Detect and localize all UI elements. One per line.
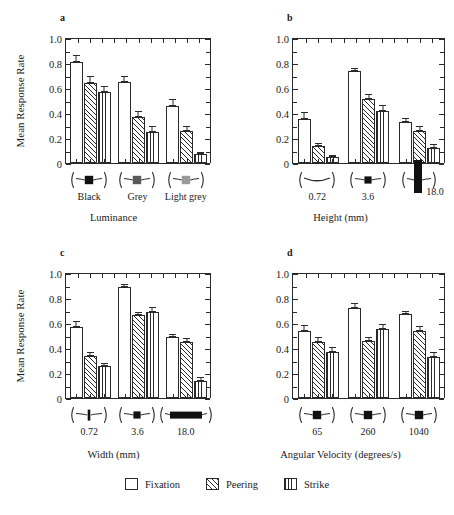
bar-slot (298, 39, 311, 163)
y-tick-label: 0.6 (49, 84, 62, 95)
legend-item-peering: Peering (206, 478, 258, 490)
panel-b-letter: b (287, 12, 293, 23)
x-tick-mark (173, 394, 174, 398)
x-tick-mark (355, 159, 356, 163)
panel-d-x-axis-title: Angular Velocity (degrees/s) (227, 449, 454, 460)
bar-slot (98, 274, 111, 398)
bar-fixation (399, 314, 412, 398)
error-bar (152, 126, 153, 132)
bar-group (394, 39, 445, 163)
x-tick-mark (383, 394, 384, 398)
bar-slot (399, 274, 412, 398)
error-bar (382, 105, 383, 111)
panel-c-x-axis-title: Width (mm) (0, 449, 227, 460)
y-tick-label: 0.4 (276, 109, 289, 120)
panel-c-letter: c (60, 247, 64, 258)
x-tick-mark (187, 394, 188, 398)
y-tick-label: 0 (284, 394, 289, 405)
y-tick-label: 0 (57, 159, 62, 170)
bar-slot (132, 274, 145, 398)
bar-slot (132, 39, 145, 163)
error-bar (368, 337, 369, 340)
x-category-label: 18.0 (156, 426, 216, 437)
x-tick-mark (332, 159, 333, 163)
legend-label-fixation: Fixation (145, 479, 180, 490)
x-tick-mark (318, 159, 319, 163)
y-tick-label: 0.8 (276, 59, 289, 70)
bar-peering (312, 342, 325, 398)
error-bar (332, 155, 333, 157)
bar-strike (376, 111, 389, 163)
error-bar (318, 143, 319, 146)
bar-slot (362, 274, 375, 398)
x-tick-mark (355, 394, 356, 398)
bar-fixation (70, 327, 83, 398)
error-bar (104, 86, 105, 92)
bar-slot (312, 39, 325, 163)
x-tick-mark (434, 394, 435, 398)
panel-a-x-axis-title: Luminance (0, 212, 227, 223)
x-tick-mark (434, 159, 435, 163)
y-tick-label: 1.0 (49, 269, 62, 280)
bar-strike (146, 312, 159, 398)
bar-strike (98, 92, 111, 163)
error-bar (200, 152, 201, 155)
x-tick-mark (201, 159, 202, 163)
error-bar (354, 68, 355, 71)
y-tick-label: 0.6 (276, 319, 289, 330)
bar-slot (427, 274, 440, 398)
x-tick-mark (369, 159, 370, 163)
x-tick-mark (104, 159, 105, 163)
bar-slot (326, 274, 339, 398)
bar-fixation (399, 122, 412, 163)
bar-strike (376, 329, 389, 398)
bar-slot (146, 274, 159, 398)
y-tick-label: 0.4 (49, 109, 62, 120)
panel-c: c Mean Response Rate 00.20.40.60.81.0 Wi… (0, 235, 227, 470)
error-bar (304, 112, 305, 120)
bar-fixation (298, 331, 311, 399)
panel-d: d 00.20.40.60.81.0 Angular Velocity (deg… (227, 235, 454, 470)
x-tick-mark (406, 159, 407, 163)
x-category-3: 1040 (387, 404, 450, 437)
panel-d-plot-area: 00.20.40.60.81.0 (292, 273, 444, 398)
x-category-label: 3.6 (337, 191, 400, 202)
x-category-3: 18.0 (156, 404, 216, 437)
error-bar (186, 338, 187, 342)
y-tick-label: 0 (57, 394, 62, 405)
x-tick-mark (369, 394, 370, 398)
bar-slot (118, 39, 131, 163)
bar-fixation (70, 62, 83, 163)
x-category-label: 1040 (387, 426, 450, 437)
bar-slot (413, 39, 426, 163)
bar-slot (180, 274, 193, 398)
y-tick-mark-right (205, 164, 210, 165)
panel-a-letter: a (60, 12, 65, 23)
bar-fixation (166, 337, 179, 398)
bar-fixation (298, 119, 311, 163)
y-tick-label: 0.2 (49, 134, 62, 145)
x-tick-mark (153, 394, 154, 398)
y-tick-mark-right (439, 164, 444, 165)
error-bar (433, 352, 434, 356)
bar-peering (362, 341, 375, 399)
bar-slot (194, 39, 207, 163)
bar-slot (194, 274, 207, 398)
legend-label-peering: Peering (226, 479, 258, 490)
x-tick-mark (104, 394, 105, 398)
bar-slot (298, 274, 311, 398)
x-tick-mark (90, 394, 91, 398)
y-tick-mark (66, 399, 71, 400)
x-tick-mark (406, 394, 407, 398)
error-bar (124, 284, 125, 288)
x-category-label: 18.0 (426, 186, 444, 197)
error-bar (90, 76, 91, 83)
bar-group (163, 39, 211, 163)
legend-label-strike: Strike (304, 479, 329, 490)
bar-group (344, 274, 395, 398)
bar-slot (326, 39, 339, 163)
legend-item-fixation: Fixation (125, 478, 180, 490)
y-tick-label: 0.6 (49, 319, 62, 330)
bar-strike (326, 352, 339, 398)
x-category-3: 18.0 (387, 169, 450, 191)
